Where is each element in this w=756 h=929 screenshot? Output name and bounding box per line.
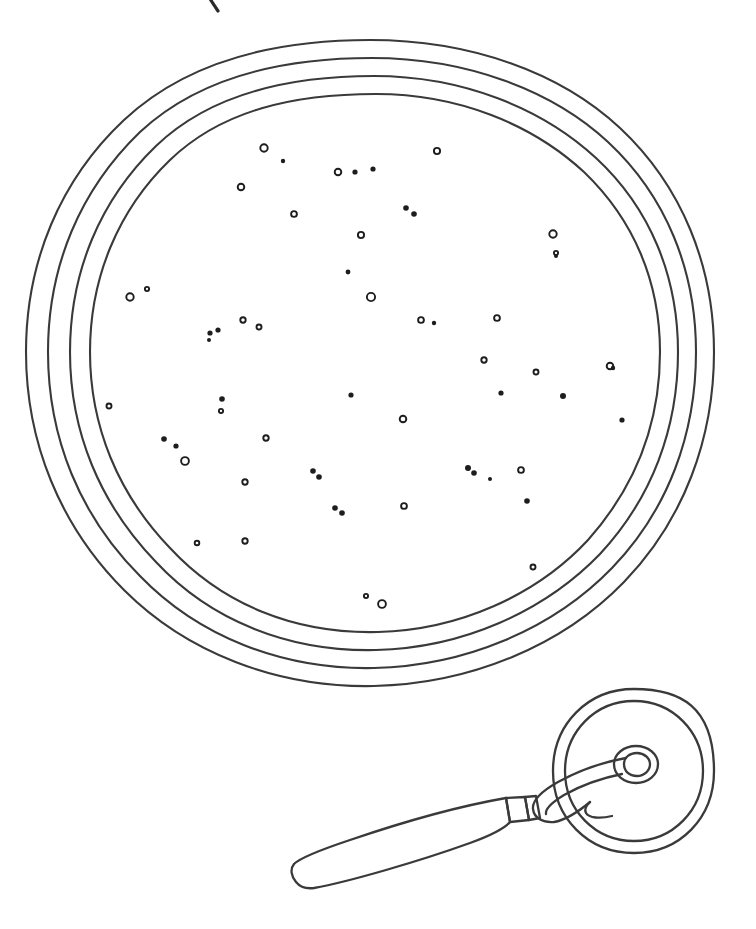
seed-dot: [370, 166, 375, 171]
seed-dot: [348, 392, 353, 397]
seed-dot: [488, 477, 492, 481]
seed-dot: [316, 474, 322, 480]
seed-dot: [161, 436, 167, 442]
seed-dot: [219, 396, 225, 402]
seed-dot: [339, 510, 345, 516]
line-art-svg: [0, 0, 756, 929]
seed-dot: [281, 159, 285, 163]
seed-dot: [554, 254, 558, 258]
seed-dot: [215, 327, 220, 332]
seed-dot: [352, 169, 357, 174]
seed-dot: [411, 211, 417, 217]
seed-dot: [619, 417, 624, 422]
seed-dot: [207, 330, 212, 335]
seed-dot: [332, 505, 338, 511]
illustration-canvas: Bowl of seeds with strainer - line art b…: [0, 0, 756, 929]
seed-dot: [498, 390, 503, 395]
seed-dot: [524, 498, 530, 504]
seed-dot: [560, 393, 566, 399]
seed-dot: [207, 338, 211, 342]
seed-dot: [432, 321, 436, 325]
seed-dot: [173, 443, 178, 448]
seed-dot: [403, 205, 409, 211]
seed-dot: [310, 468, 316, 474]
seed-dot: [471, 470, 477, 476]
seed-dot: [611, 366, 615, 370]
seed-dot: [465, 465, 471, 471]
seed-dot: [346, 270, 351, 275]
